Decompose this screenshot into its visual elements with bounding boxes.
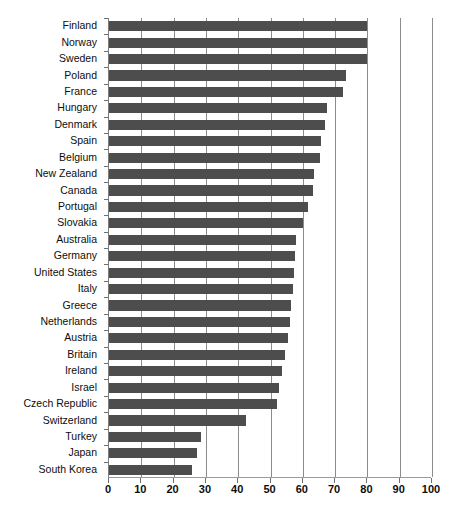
category-axis: FinlandNorwaySwedenPolandFranceHungaryDe… [0, 18, 104, 478]
category-label: Poland [64, 70, 97, 81]
bar [109, 366, 282, 376]
bar [109, 120, 325, 130]
value-label-30: 30 [199, 483, 211, 496]
category-label: Netherlands [40, 316, 97, 327]
gridline-100 [432, 18, 433, 477]
value-label-50: 50 [263, 483, 275, 496]
bar [109, 448, 197, 458]
bar [109, 38, 367, 48]
bar-row [109, 21, 431, 31]
category-label: Spain [70, 135, 97, 146]
bar [109, 54, 367, 64]
bar-row [109, 120, 431, 130]
category-label: Japan [68, 447, 97, 458]
bar [109, 333, 288, 343]
scan-artifact [0, 516, 460, 528]
bar-row [109, 235, 431, 245]
category-label: New Zealand [35, 168, 97, 179]
bar-row [109, 317, 431, 327]
value-label-70: 70 [328, 483, 340, 496]
value-label-40: 40 [231, 483, 243, 496]
bar [109, 218, 303, 228]
bar-row [109, 103, 431, 113]
bar [109, 87, 343, 97]
value-label-10: 10 [134, 483, 146, 496]
bar [109, 432, 201, 442]
value-label-60: 60 [296, 483, 308, 496]
bar-row [109, 54, 431, 64]
bar-row [109, 465, 431, 475]
category-label: Czech Republic [23, 398, 97, 409]
category-label: Germany [54, 250, 97, 261]
bar-row [109, 136, 431, 146]
bar [109, 415, 246, 425]
bar [109, 202, 308, 212]
category-label: Denmark [54, 119, 97, 130]
bar [109, 169, 314, 179]
bar [109, 70, 346, 80]
category-label: Italy [78, 283, 97, 294]
bar-row [109, 333, 431, 343]
bar [109, 268, 294, 278]
bar-row [109, 284, 431, 294]
bar-row [109, 251, 431, 261]
bar [109, 465, 192, 475]
value-label-80: 80 [360, 483, 372, 496]
bar-row [109, 432, 431, 442]
category-label: South Korea [39, 464, 97, 475]
bar-row [109, 153, 431, 163]
bar-row [109, 399, 431, 409]
bar-row [109, 448, 431, 458]
category-label: Belgium [59, 152, 97, 163]
bar-row [109, 383, 431, 393]
bar-row [109, 202, 431, 212]
bar [109, 383, 279, 393]
category-label: Switzerland [43, 415, 97, 426]
bar-row [109, 350, 431, 360]
bar [109, 399, 277, 409]
category-label: Norway [61, 37, 97, 48]
bar-row [109, 38, 431, 48]
value-label-100: 100 [422, 483, 440, 496]
category-label: Sweden [59, 53, 97, 64]
category-label: United States [34, 267, 97, 278]
bar-row [109, 169, 431, 179]
category-label: Israel [71, 382, 97, 393]
category-label: Portugal [58, 201, 97, 212]
category-label: Greece [63, 300, 97, 311]
bar-row [109, 366, 431, 376]
bar-row [109, 415, 431, 425]
category-label: Finland [63, 20, 97, 31]
category-label: Slovakia [57, 217, 97, 228]
category-label: Hungary [57, 102, 97, 113]
value-label-20: 20 [166, 483, 178, 496]
bar-row [109, 70, 431, 80]
value-label-0: 0 [105, 483, 111, 496]
bar [109, 317, 290, 327]
bar [109, 350, 285, 360]
bar [109, 153, 320, 163]
bar [109, 284, 293, 294]
bar [109, 251, 295, 261]
bar [109, 235, 296, 245]
bar-row [109, 185, 431, 195]
bar-row [109, 87, 431, 97]
category-label: Ireland [65, 365, 97, 376]
bar [109, 103, 327, 113]
value-axis: 0102030405060708090100 [0, 483, 460, 503]
plot-area [108, 18, 431, 478]
category-label: Canada [60, 185, 97, 196]
bar [109, 136, 321, 146]
bar [109, 300, 291, 310]
bar-row [109, 300, 431, 310]
bar-series [109, 18, 431, 477]
bar [109, 21, 367, 31]
category-label: Australia [56, 234, 97, 245]
category-label: Austria [64, 332, 97, 343]
bar-row [109, 268, 431, 278]
bar [109, 185, 313, 195]
category-label: France [64, 86, 97, 97]
bar-row [109, 218, 431, 228]
bar-chart: FinlandNorwaySwedenPolandFranceHungaryDe… [0, 0, 460, 528]
category-label: Turkey [65, 431, 97, 442]
